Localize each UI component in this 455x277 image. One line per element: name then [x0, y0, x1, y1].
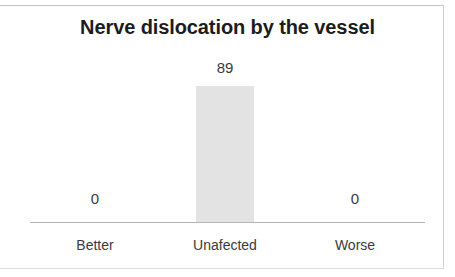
axis-tick-label-unafected: Unafected	[165, 237, 285, 253]
data-label-unafected: 89	[185, 59, 265, 76]
chart-title: Nerve dislocation by the vessel	[0, 16, 455, 39]
bar-unafected	[196, 86, 254, 222]
plot-area: Nerve dislocation by the vessel 0 89 0 B…	[0, 0, 455, 277]
axis-tick-label-worse: Worse	[305, 237, 405, 253]
data-label-worse: 0	[315, 190, 395, 207]
category-axis-line	[30, 222, 425, 223]
chart-figure: Nerve dislocation by the vessel 0 89 0 B…	[0, 0, 455, 277]
axis-tick-label-better: Better	[45, 237, 145, 253]
data-label-better: 0	[55, 190, 135, 207]
